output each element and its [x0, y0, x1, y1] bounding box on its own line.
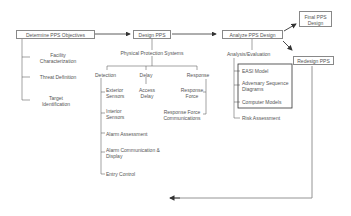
interior-sensors: Interior Sensors [106, 108, 130, 120]
response-force-communications: Response Force Communications [160, 109, 204, 121]
redesign-pps-box: Redesign PPS [293, 56, 334, 65]
access-delay: Access Delay [136, 87, 158, 99]
redesign-pps-label: Redesign PPS [297, 58, 330, 64]
alarm-assessment: Alarm Assessment [106, 131, 147, 137]
final-pps-design-box: Final PPS Design [299, 11, 332, 27]
exterior-sensors: Exterior Sensors [106, 87, 130, 99]
determine-objectives-label: Determine PPS Objectives [26, 32, 85, 38]
analyze-pps-box: Analyze PPS Design [222, 30, 283, 39]
detection-label: Detection [95, 72, 116, 78]
determine-objectives-box: Determine PPS Objectives [16, 30, 95, 39]
target-identification: Target Identification [36, 95, 76, 107]
threat-definition: Threat Definition [31, 74, 85, 80]
analysis-evaluation: Analysis/Evaluation [227, 51, 270, 57]
response-label: Response [184, 72, 212, 78]
analyze-pps-label: Analyze PPS Design [229, 32, 275, 38]
easi-model: EASI Model [242, 68, 268, 74]
delay-label: Delay [136, 72, 156, 78]
computer-models: Computer Models [242, 99, 281, 105]
risk-assessment: Risk Assessment [242, 115, 280, 121]
adversary-sequence-diagrams: Adversary Sequence Diagrams [242, 80, 290, 92]
design-pps-box: Design PPS [133, 30, 171, 39]
final-pps-design-label: Final PPS Design [304, 14, 326, 26]
design-pps-label: Design PPS [139, 32, 166, 38]
physical-protection-systems: Physical Protection Systems [112, 50, 192, 56]
facility-characterization: Facility Characterization [33, 52, 83, 64]
entry-control: Entry Control [106, 171, 135, 177]
alarm-communication-display: Alarm Communication & Display [106, 147, 176, 159]
response-force: Response Force [178, 87, 206, 99]
